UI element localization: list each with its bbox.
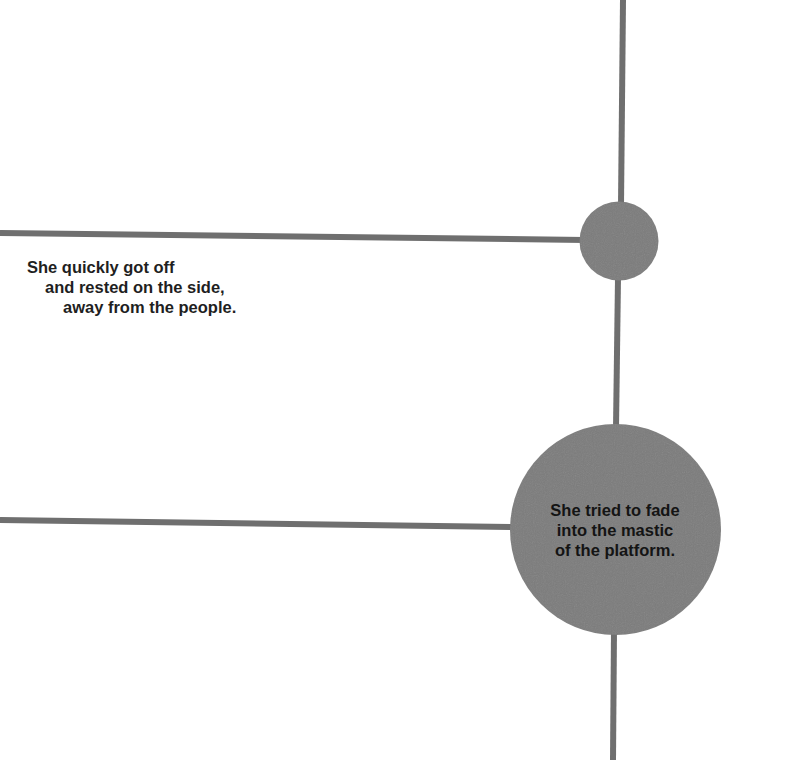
left-caption-line-2: and rested on the side, [27, 277, 236, 297]
circle-caption: She tried to fade into the mastic of the… [532, 500, 698, 560]
timeline-segment-bottom [613, 630, 614, 760]
branch-line-1 [0, 233, 585, 240]
circle-caption-line-1: She tried to fade [532, 500, 698, 520]
left-caption: She quickly got off and rested on the si… [27, 257, 236, 317]
branch-line-2 [0, 520, 515, 527]
timeline-node-small [580, 202, 659, 281]
timeline-segment-middle [616, 278, 618, 428]
left-caption-line-1: She quickly got off [27, 257, 236, 277]
circle-caption-line-2: into the mastic [532, 520, 698, 540]
timeline-segment-top [621, 0, 623, 205]
timeline-diagram [0, 0, 789, 763]
left-caption-line-3: away from the people. [27, 297, 236, 317]
circle-caption-line-3: of the platform. [532, 540, 698, 560]
